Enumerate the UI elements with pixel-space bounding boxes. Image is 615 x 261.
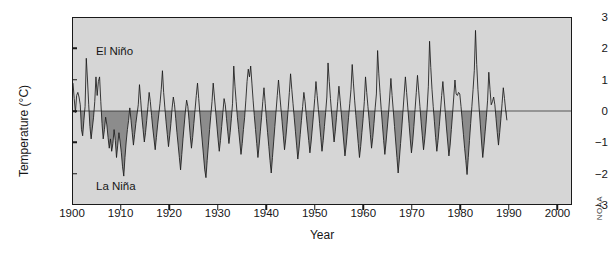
x-tick-mark [411, 205, 413, 210]
x-axis-title: Year [72, 228, 572, 242]
x-tick-mark [508, 205, 510, 210]
plot-svg [73, 18, 571, 204]
y-tick-label: −1 [595, 136, 608, 148]
y-tick-label: 0 [602, 105, 608, 117]
y-tick-mark [72, 173, 77, 175]
y-tick-mark [72, 110, 77, 112]
y-axis-title: Temperature (°C) [17, 61, 31, 201]
y-tick-mark [72, 79, 77, 81]
anomaly-series-line [73, 30, 507, 177]
annotation-el-nino: El Niño [96, 45, 133, 57]
y-tick-label: −2 [595, 168, 608, 180]
y-tick-mark [72, 48, 77, 50]
negative-area-fill [73, 111, 507, 178]
x-tick-label: 1900 [59, 207, 85, 219]
x-tick-mark [217, 205, 219, 210]
x-tick-mark [265, 205, 267, 210]
y-axis: Temperature (°C) [0, 0, 72, 261]
enso-temperature-anomaly-chart: Temperature (°C) El Niño La Niña 3210−1−… [0, 0, 615, 261]
y-tick-mark [72, 142, 77, 144]
x-tick-mark [557, 205, 559, 210]
plot-area: El Niño La Niña [72, 17, 572, 205]
x-tick-mark [460, 205, 462, 210]
y-tick-label: 3 [602, 11, 608, 23]
x-tick-mark [168, 205, 170, 210]
source-credit: NOAA [595, 196, 604, 220]
x-tick-mark [314, 205, 316, 210]
annotation-la-nina: La Niña [96, 180, 136, 192]
y-tick-label: 1 [602, 74, 608, 86]
x-tick-mark [363, 205, 365, 210]
y-tick-label: 2 [602, 42, 608, 54]
negative-fill-group [73, 111, 507, 178]
x-tick-mark [120, 205, 122, 210]
